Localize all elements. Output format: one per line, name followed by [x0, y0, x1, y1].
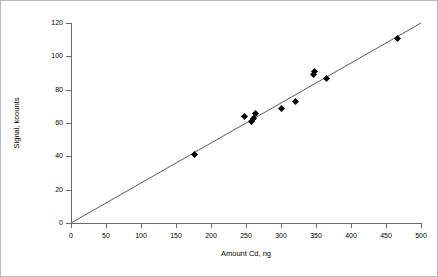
- x-tick-label: 400: [336, 232, 366, 239]
- x-tick-mark: [421, 223, 422, 228]
- x-tick-label: 350: [301, 232, 331, 239]
- plot-area: 020406080100120 050100150200250300350400…: [71, 23, 421, 223]
- y-tick-label: 120: [51, 19, 63, 26]
- x-tick-label: 100: [126, 232, 156, 239]
- data-point: [241, 113, 248, 120]
- data-point: [323, 74, 330, 81]
- x-tick-label: 300: [266, 232, 296, 239]
- data-point: [291, 98, 298, 105]
- x-tick-label: 0: [56, 232, 86, 239]
- x-tick-label: 500: [406, 232, 436, 239]
- x-tick-label: 50: [91, 232, 121, 239]
- data-series: [71, 23, 421, 223]
- data-point: [191, 151, 198, 158]
- y-axis-title: Signal, kcounts: [11, 23, 22, 223]
- y-tick-label: 80: [55, 86, 63, 93]
- y-tick-label: 100: [51, 52, 63, 59]
- y-tick-label: 20: [55, 186, 63, 193]
- x-tick-label: 450: [371, 232, 401, 239]
- data-point: [394, 34, 401, 41]
- y-tick-label: 60: [55, 119, 63, 126]
- x-tick-label: 200: [196, 232, 226, 239]
- chart-figure: 020406080100120 050100150200250300350400…: [0, 0, 438, 277]
- x-axis-tick-labels: 050100150200250300350400450500: [71, 224, 421, 238]
- data-point: [277, 104, 284, 111]
- x-tick-label: 150: [161, 232, 191, 239]
- x-axis-title: Amount Cd, ng: [71, 249, 421, 258]
- x-tick-label: 250: [231, 232, 261, 239]
- y-tick-label: 0: [59, 219, 63, 226]
- y-tick-label: 40: [55, 152, 63, 159]
